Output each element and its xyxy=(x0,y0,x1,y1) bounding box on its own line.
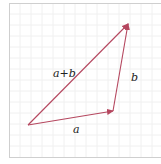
grid xyxy=(10,4,161,157)
label-sum: a+b xyxy=(53,68,76,79)
label-a: a xyxy=(73,124,80,135)
label-b: b xyxy=(131,72,138,83)
